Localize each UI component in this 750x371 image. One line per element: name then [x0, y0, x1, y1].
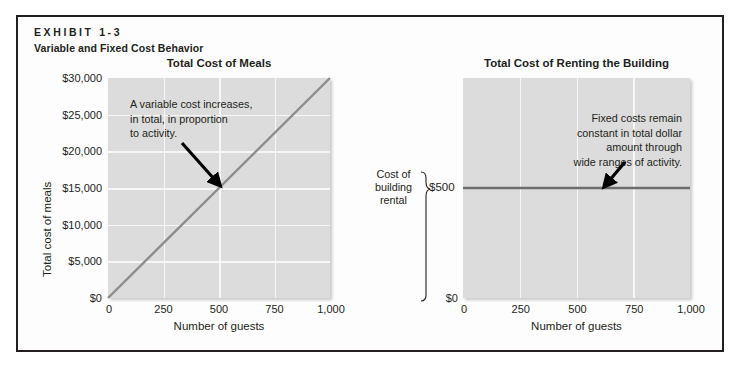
- left-gridline-y-10000: [108, 225, 330, 227]
- left-gridline-y-15000: [108, 188, 330, 190]
- left-annotation: A variable cost increases, in total, in …: [130, 97, 282, 141]
- left-gridline-y-5000: [108, 261, 330, 263]
- left-xtick-250: 250: [154, 303, 172, 315]
- exhibit-page: EXHIBIT 1-3 Variable and Fixed Cost Beha…: [0, 0, 750, 371]
- left-yaxis-title: Total cost of meals: [41, 182, 53, 277]
- right-chart-title: Total Cost of Renting the Building: [463, 57, 690, 69]
- right-xtick-250: 250: [512, 303, 530, 315]
- left-xaxis-title: Number of guests: [108, 320, 330, 332]
- brace-label-line-2: building: [366, 181, 421, 194]
- left-xtick-0: 0: [106, 303, 112, 315]
- exhibit-subtitle: Variable and Fixed Cost Behavior: [34, 42, 204, 54]
- brace-label-line-3: rental: [366, 194, 421, 207]
- left-ytick-0: $0: [39, 292, 102, 304]
- left-ytick-25000: $25,000: [39, 109, 102, 121]
- left-gridline-y-20000: [108, 151, 330, 153]
- right-xaxis-title: Number of guests: [463, 320, 690, 332]
- right-xtick-0: 0: [461, 303, 467, 315]
- left-ytick-30000: $30,000: [39, 72, 102, 84]
- right-annotation-line-2: constant in total dollar: [510, 126, 682, 141]
- right-xtick-500: 500: [568, 303, 586, 315]
- left-annotation-line-1: A variable cost increases,: [130, 97, 282, 112]
- left-xtick-1000: 1,000: [317, 303, 345, 315]
- right-annotation-line-1: Fixed costs remain: [510, 111, 682, 126]
- brace-label-line-1: Cost of: [366, 168, 421, 181]
- fixed-cost-value-label: $500: [429, 181, 455, 193]
- right-annotation: Fixed costs remain constant in total dol…: [510, 111, 682, 169]
- cost-of-building-rental-label: Cost of building rental: [366, 168, 421, 207]
- left-ytick-20000: $20,000: [39, 145, 102, 157]
- left-xtick-750: 750: [265, 303, 283, 315]
- right-annotation-line-3: amount through: [510, 140, 682, 155]
- right-xtick-750: 750: [625, 303, 643, 315]
- exhibit-label: EXHIBIT 1-3: [34, 26, 122, 38]
- right-xtick-1000: 1,000: [677, 303, 705, 315]
- left-annotation-line-3: to activity.: [130, 126, 282, 141]
- left-chart-title: Total Cost of Meals: [108, 57, 330, 69]
- left-xtick-500: 500: [210, 303, 228, 315]
- right-annotation-line-4: wide ranges of activity.: [510, 155, 682, 170]
- right-ytick-0: $0: [418, 292, 458, 304]
- left-annotation-line-2: in total, in proportion: [130, 112, 282, 127]
